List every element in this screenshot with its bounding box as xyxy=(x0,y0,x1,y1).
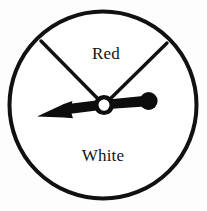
sector-label-red: Red xyxy=(92,44,120,63)
needle-counterweight xyxy=(140,92,158,110)
spinner-figure: Red White xyxy=(0,0,207,211)
spinner-canvas: Red White xyxy=(0,0,207,211)
sector-label-white: White xyxy=(82,146,125,165)
needle-hub-center xyxy=(99,100,110,111)
